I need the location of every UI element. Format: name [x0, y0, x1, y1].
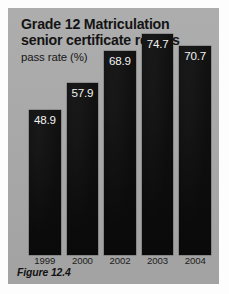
x-axis-labels: 1999 2000 2002 2003 2004: [29, 255, 211, 266]
bar-value-label: 68.9: [104, 55, 136, 67]
bar-group-1999: 48.9: [29, 18, 61, 255]
bar-2003[interactable]: 74.7: [142, 34, 174, 255]
bar-2002[interactable]: 68.9: [104, 51, 136, 255]
x-tick-2000: 2000: [67, 255, 99, 266]
bar-value-label: 57.9: [67, 87, 99, 99]
figure-caption: Figure 12.4: [17, 267, 71, 278]
bar-value-label: 48.9: [29, 114, 61, 126]
bar-value-label: 70.7: [179, 50, 211, 62]
x-tick-2003: 2003: [142, 255, 174, 266]
x-tick-2004: 2004: [179, 255, 211, 266]
bar-group-2002: 68.9: [104, 18, 136, 255]
bar-2004[interactable]: 70.7: [179, 46, 211, 255]
chart-panel: Grade 12 Matriculation senior certificat…: [8, 8, 219, 284]
bar-value-label: 74.7: [142, 38, 174, 50]
figure-container: Grade 12 Matriculation senior certificat…: [0, 0, 229, 294]
x-tick-2002: 2002: [104, 255, 136, 266]
plot-area: 48.9 57.9 68.9 74.7: [29, 18, 211, 255]
bar-group-2000: 57.9: [67, 18, 99, 255]
bar-group-2003: 74.7: [142, 18, 174, 255]
bar-series: 48.9 57.9 68.9 74.7: [29, 18, 211, 255]
bar-group-2004: 70.7: [179, 18, 211, 255]
bar-1999[interactable]: 48.9: [29, 110, 61, 255]
x-tick-1999: 1999: [29, 255, 61, 266]
bar-2000[interactable]: 57.9: [67, 83, 99, 255]
